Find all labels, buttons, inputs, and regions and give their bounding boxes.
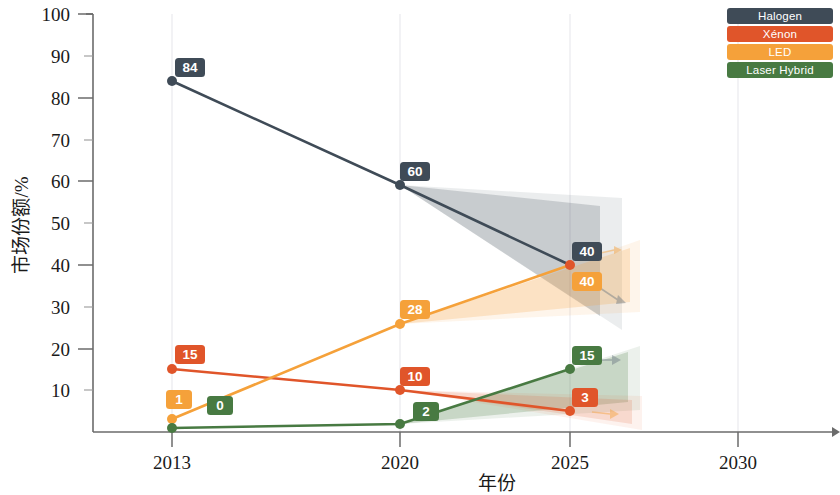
x-axis-title: 年份 bbox=[478, 473, 516, 494]
y-tick-label: 10 bbox=[51, 380, 70, 401]
data-label-text: 84 bbox=[182, 60, 198, 75]
data-label-text: 15 bbox=[182, 347, 198, 362]
y-tick-labels: 100 90 80 70 60 50 40 30 20 10 bbox=[42, 4, 71, 401]
y-tick-label: 40 bbox=[51, 255, 70, 276]
x-axis-arrow bbox=[832, 427, 840, 437]
point-led-2013 bbox=[167, 414, 177, 424]
data-label-halogen-2025: 40 bbox=[572, 242, 602, 261]
point-laser-2020 bbox=[395, 419, 405, 429]
data-label-laser-2025: 15 bbox=[572, 346, 602, 365]
legend-label: Laser Hybrid bbox=[746, 64, 814, 76]
data-label-halogen-2020: 60 bbox=[400, 162, 430, 181]
y-tick-label: 20 bbox=[51, 339, 70, 360]
x-tick-label: 2020 bbox=[381, 452, 419, 473]
point-led-2020 bbox=[395, 319, 405, 329]
data-label-led-2025: 40 bbox=[572, 272, 602, 291]
data-label-xenon-2020: 10 bbox=[400, 367, 430, 386]
legend-label: Halogen bbox=[758, 10, 802, 22]
y-tick-label: 70 bbox=[51, 130, 70, 151]
chart-canvas: 100 90 80 70 60 50 40 30 20 10 2013 2020… bbox=[0, 0, 840, 495]
data-label-text: 40 bbox=[579, 244, 594, 259]
data-label-xenon-2013: 15 bbox=[175, 345, 205, 364]
y-tick-label: 50 bbox=[51, 213, 70, 234]
data-label-text: 40 bbox=[579, 274, 594, 289]
y-tick-label: 30 bbox=[51, 297, 70, 318]
legend-label: LED bbox=[769, 46, 792, 58]
data-label-text: 2 bbox=[422, 404, 430, 419]
y-tick-label: 60 bbox=[51, 171, 70, 192]
axes bbox=[78, 14, 840, 447]
legend-item-laser-hybrid[interactable]: Laser Hybrid bbox=[727, 62, 833, 78]
data-label-led-2020: 28 bbox=[400, 300, 430, 319]
legend-item-led[interactable]: LED bbox=[727, 44, 833, 60]
legend-label: Xénon bbox=[763, 28, 797, 40]
point-xenon-2025 bbox=[565, 406, 575, 416]
x-tick-label: 2013 bbox=[153, 452, 191, 473]
point-xenon-2020 bbox=[395, 385, 405, 395]
data-label-text: 3 bbox=[581, 390, 589, 405]
data-label-xenon-2025: 3 bbox=[572, 388, 598, 407]
point-halogen-2013 bbox=[167, 76, 177, 86]
x-tick-label: 2025 bbox=[551, 452, 589, 473]
x-tick-labels: 2013 2020 2025 2030 bbox=[153, 452, 757, 473]
point-halogen-2025 bbox=[565, 260, 575, 270]
data-label-text: 10 bbox=[407, 369, 422, 384]
point-xenon-2013 bbox=[167, 364, 177, 374]
data-label-led-2013: 1 bbox=[166, 390, 192, 409]
y-axis-title: 市场份额/% bbox=[11, 176, 32, 273]
y-tick-label: 90 bbox=[51, 46, 70, 67]
data-label-text: 28 bbox=[407, 302, 423, 317]
x-tick-label: 2030 bbox=[719, 452, 757, 473]
data-label-laser-2013: 0 bbox=[207, 396, 233, 415]
gridlines bbox=[172, 14, 738, 432]
data-label-halogen-2013: 84 bbox=[175, 58, 205, 77]
legend-item-xenon[interactable]: Xénon bbox=[727, 26, 833, 42]
point-laser-2013 bbox=[167, 423, 177, 433]
y-tick-label: 80 bbox=[51, 88, 70, 109]
point-laser-2025 bbox=[565, 364, 575, 374]
point-halogen-2020 bbox=[395, 180, 405, 190]
data-label-text: 15 bbox=[579, 348, 595, 363]
line-halogen bbox=[172, 81, 570, 265]
data-label-laser-2020: 2 bbox=[413, 402, 439, 421]
y-tick-label: 100 bbox=[42, 4, 71, 25]
data-label-text: 60 bbox=[407, 164, 422, 179]
market-share-line-chart: 100 90 80 70 60 50 40 30 20 10 2013 2020… bbox=[0, 0, 840, 495]
data-label-text: 1 bbox=[175, 392, 183, 407]
data-label-text: 0 bbox=[216, 398, 224, 413]
legend-item-halogen[interactable]: Halogen bbox=[727, 8, 833, 24]
chart-legend: Halogen Xénon LED Laser Hybrid bbox=[727, 8, 833, 78]
